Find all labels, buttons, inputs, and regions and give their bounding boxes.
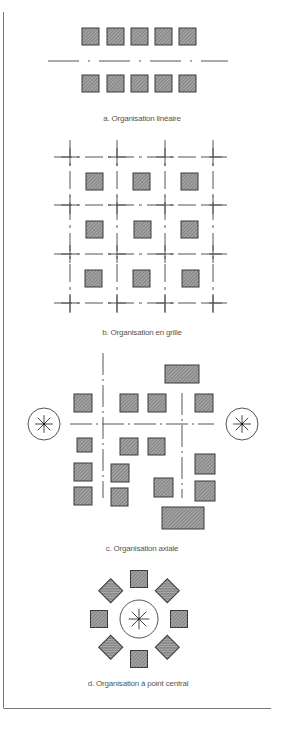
grid-space xyxy=(134,221,151,238)
left-focal-point-icon xyxy=(28,408,60,440)
caption-grid: b. Organisation en grille xyxy=(102,328,182,337)
central-organization-figure xyxy=(91,571,188,668)
center-dot xyxy=(138,618,140,620)
axial-space xyxy=(154,478,173,497)
axial-space xyxy=(148,438,165,455)
linear-space-top xyxy=(131,28,148,45)
radial-space xyxy=(131,651,148,668)
diagram-canvas: a. Organisation linéaire b. Organisation… xyxy=(0,0,284,732)
grid-space xyxy=(182,270,199,287)
grid-organization-figure xyxy=(54,140,231,318)
axial-space xyxy=(148,394,166,412)
grid-space xyxy=(86,173,103,190)
axial-space xyxy=(165,365,199,383)
right-focal-point-icon xyxy=(226,408,258,440)
radial-space xyxy=(91,611,108,628)
axial-space xyxy=(120,438,138,455)
linear-space-bottom xyxy=(82,75,99,92)
axial-space xyxy=(111,488,128,506)
radial-space xyxy=(171,611,188,628)
axial-organization-figure xyxy=(28,353,258,529)
axial-space xyxy=(195,481,215,501)
grid-space xyxy=(86,221,103,238)
linear-space-bottom xyxy=(179,75,196,92)
grid-space xyxy=(133,270,150,287)
grid-space xyxy=(181,221,198,238)
central-point-icon xyxy=(120,600,158,638)
axial-space xyxy=(195,454,215,474)
axial-space xyxy=(74,394,92,412)
linear-space-top xyxy=(107,28,124,45)
linear-space-bottom xyxy=(155,75,172,92)
linear-organization-figure xyxy=(48,28,228,92)
grid-space xyxy=(85,270,102,287)
linear-space-bottom xyxy=(107,75,124,92)
caption-linear: a. Organisation linéaire xyxy=(103,114,181,123)
axial-space xyxy=(195,394,213,412)
axial-space xyxy=(74,463,92,481)
radial-space xyxy=(99,635,123,659)
radial-space xyxy=(99,579,123,603)
axial-space xyxy=(162,507,204,529)
caption-axial: c. Organisation axiale xyxy=(106,544,179,553)
grid-space xyxy=(181,173,198,190)
axial-space xyxy=(120,394,138,412)
linear-space-bottom xyxy=(131,75,148,92)
caption-central: d. Organisation à point central xyxy=(88,679,189,688)
axial-space xyxy=(74,487,92,505)
center-dot xyxy=(43,423,45,425)
axial-space xyxy=(111,464,129,482)
grid-space xyxy=(133,173,150,190)
center-dot xyxy=(241,423,243,425)
linear-space-top xyxy=(82,28,99,45)
axial-space xyxy=(77,438,92,452)
linear-space-top xyxy=(179,28,196,45)
radial-space xyxy=(131,571,148,588)
radial-space xyxy=(155,635,179,659)
radial-space xyxy=(155,579,179,603)
linear-space-top xyxy=(155,28,172,45)
